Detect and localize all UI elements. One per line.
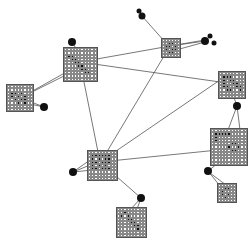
connector-dot [139,13,146,20]
connector-dot [69,168,77,176]
connector-dot [212,41,217,46]
dots-layer [0,0,252,244]
connector-dot [201,37,209,45]
connector-dot [40,103,48,111]
connector-dot [208,34,213,39]
connector-dot [204,167,212,175]
connector-dot [233,102,241,110]
connector-dot [68,38,76,46]
network-diagram [0,0,252,244]
connector-dot [137,194,145,202]
